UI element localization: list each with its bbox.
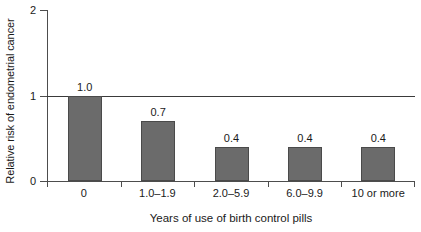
x-axis-title: Years of use of birth control pills bbox=[47, 210, 415, 226]
bar-slot-4: 0.4 bbox=[342, 10, 415, 181]
bar-slot-3: 0.4 bbox=[268, 10, 341, 181]
x-tick-label-3: 6.0–9.9 bbox=[268, 186, 342, 201]
bar-value-label-4: 0.4 bbox=[342, 131, 415, 145]
bar-1 bbox=[141, 121, 175, 181]
bar-value-label-3: 0.4 bbox=[268, 131, 341, 145]
x-axis-tick-labels: 0 1.0–1.9 2.0–5.9 6.0–9.9 10 or more bbox=[47, 186, 415, 201]
x-tick-label-4: 10 or more bbox=[341, 186, 415, 201]
y-tick-2: 2 bbox=[40, 10, 47, 11]
bar-slot-2: 0.4 bbox=[195, 10, 268, 181]
bar-value-label-1: 0.7 bbox=[121, 105, 194, 119]
bar-2 bbox=[215, 147, 249, 181]
bar-series: 1.0 0.7 0.4 0.4 0.4 bbox=[48, 10, 415, 181]
bar-3 bbox=[288, 147, 322, 181]
bar-4 bbox=[361, 147, 395, 181]
y-tick-1: 1 bbox=[40, 96, 47, 97]
bar-value-label-0: 1.0 bbox=[48, 80, 121, 94]
y-axis-title: Relative risk of endometrial cancer bbox=[2, 6, 18, 196]
bar-value-label-2: 0.4 bbox=[195, 131, 268, 145]
y-tick-label-2: 2 bbox=[30, 2, 36, 18]
x-tick-marks bbox=[47, 182, 415, 183]
plot-area: 0 1 2 1.0 0.7 0.4 0.4 bbox=[47, 10, 415, 182]
y-tick-label-0: 0 bbox=[30, 173, 36, 189]
bar-slot-0: 1.0 bbox=[48, 10, 121, 181]
bar-0 bbox=[68, 96, 102, 182]
bar-chart-figure: Relative risk of endometrial cancer 0 1 … bbox=[0, 0, 421, 232]
bar-slot-1: 0.7 bbox=[121, 10, 194, 181]
y-tick-label-1: 1 bbox=[30, 88, 36, 104]
x-tick-label-2: 2.0–5.9 bbox=[194, 186, 268, 201]
x-tick-label-1: 1.0–1.9 bbox=[121, 186, 195, 201]
x-tick-label-0: 0 bbox=[47, 186, 121, 201]
y-tick-0: 0 bbox=[40, 181, 47, 182]
